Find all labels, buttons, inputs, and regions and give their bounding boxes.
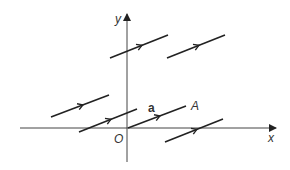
vector-segment: [165, 119, 223, 142]
diagram-svg: y x O a A: [0, 0, 290, 170]
vector-segment: [51, 95, 109, 117]
point-a-label: A: [190, 99, 199, 113]
vector-a-label: a: [148, 101, 155, 115]
origin-label: O: [114, 132, 123, 146]
vector-segment: [167, 35, 225, 58]
vector-diagram: y x O a A: [0, 0, 290, 170]
parallel-vectors: [51, 35, 225, 142]
vector-segment: [110, 35, 168, 58]
y-axis-label: y: [114, 12, 122, 26]
x-axis-label: x: [267, 131, 275, 145]
